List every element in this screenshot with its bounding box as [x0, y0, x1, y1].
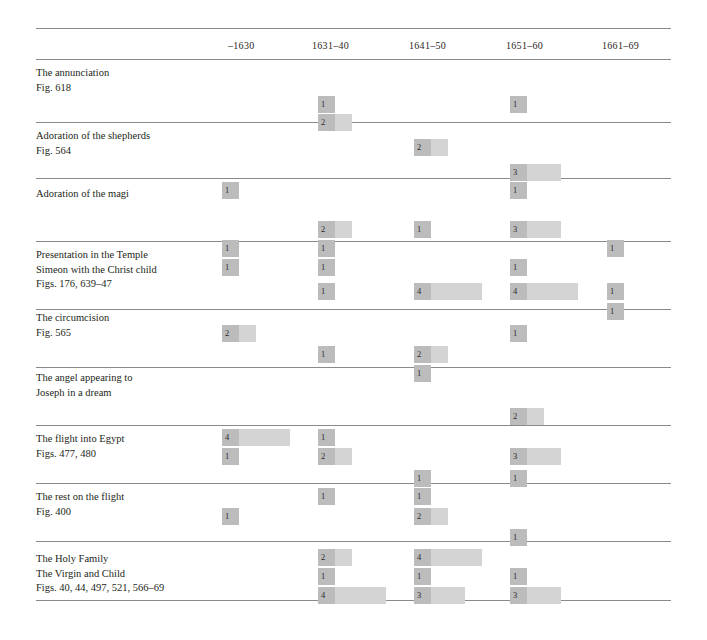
bar-value-label: 1 — [513, 183, 517, 198]
value-bar: 1 — [510, 325, 527, 342]
section-label-line: Adoration of the shepherds — [36, 129, 150, 144]
section-label-line: Fig. 618 — [36, 81, 109, 96]
value-bar: 3 — [510, 164, 561, 181]
value-bar: 4 — [414, 549, 482, 566]
bar-extension — [431, 587, 465, 604]
section-label-line: Joseph in a dream — [36, 386, 133, 401]
section-label: The annunciationFig. 618 — [36, 66, 109, 95]
section-label-line: Adoration of the magi — [36, 187, 129, 202]
bar-value-label: 4 — [225, 430, 229, 445]
bar-extension — [335, 448, 352, 465]
section-label-line: The flight into Egypt — [36, 432, 124, 447]
value-bar: 2 — [318, 114, 352, 131]
bar-value-label: 2 — [417, 140, 421, 155]
bar-value-label: 3 — [417, 588, 421, 603]
value-bar: 1 — [414, 365, 431, 382]
column-header-2: 1631–40 — [312, 40, 349, 51]
bar-value-label: 3 — [513, 165, 517, 180]
section-label: Adoration of the magi — [36, 187, 129, 202]
value-bar: 3 — [414, 587, 465, 604]
bar-extension — [431, 346, 448, 363]
bar-value-label: 1 — [417, 489, 421, 504]
section-label-line: The Virgin and Child — [36, 567, 164, 582]
bar-value-label: 4 — [417, 284, 421, 299]
section-label-line: Presentation in the Temple — [36, 248, 157, 263]
section-label: Adoration of the shepherdsFig. 564 — [36, 129, 150, 158]
section-divider-rule — [36, 541, 671, 542]
value-bar: 1 — [318, 429, 335, 446]
bar-value-label: 2 — [417, 509, 421, 524]
section-divider-rule — [36, 425, 671, 426]
section-label-line: The Holy Family — [36, 552, 164, 567]
bar-value-label: 3 — [513, 588, 517, 603]
section-divider-rule — [36, 178, 671, 179]
bar-value-label: 1 — [610, 241, 614, 256]
section-label: The angel appearing toJoseph in a dream — [36, 371, 133, 400]
section-label: Presentation in the TempleSimeon with th… — [36, 248, 157, 292]
bar-value-label: 1 — [513, 326, 517, 341]
section-label-line: The circumcision — [36, 311, 109, 326]
value-bar: 2 — [414, 346, 448, 363]
bar-extension — [335, 114, 352, 131]
value-bar: 2 — [318, 221, 352, 238]
section-label-line: Fig. 565 — [36, 326, 109, 341]
value-bar: 2 — [510, 408, 544, 425]
section-label-line: Figs. 176, 639–47 — [36, 277, 157, 292]
value-bar: 4 — [414, 283, 482, 300]
section-label: The circumcisionFig. 565 — [36, 311, 109, 340]
section-divider-rule — [36, 241, 671, 242]
bar-extension — [239, 429, 290, 446]
bar-value-label: 4 — [417, 550, 421, 565]
bar-value-label: 1 — [321, 241, 325, 256]
section-divider-rule — [36, 28, 671, 29]
bar-value-label: 2 — [513, 409, 517, 424]
section-label-line: Fig. 400 — [36, 505, 124, 520]
bar-value-label: 4 — [513, 284, 517, 299]
value-bar: 2 — [318, 549, 352, 566]
section-label-line: The angel appearing to — [36, 371, 133, 386]
bar-value-label: 1 — [321, 284, 325, 299]
bar-value-label: 2 — [321, 550, 325, 565]
bar-value-label: 1 — [610, 284, 614, 299]
bar-value-label: 1 — [417, 222, 421, 237]
bar-extension — [431, 508, 448, 525]
section-label-line: The annunciation — [36, 66, 109, 81]
value-bar: 1 — [414, 568, 431, 585]
section-label: The flight into EgyptFigs. 477, 480 — [36, 432, 124, 461]
bar-value-label: 1 — [225, 183, 229, 198]
section-label-line: Figs. 40, 44, 497, 521, 566–69 — [36, 581, 164, 596]
bar-extension — [431, 549, 482, 566]
bar-value-label: 1 — [417, 366, 421, 381]
value-bar: 2 — [222, 325, 256, 342]
bar-value-label: 3 — [513, 449, 517, 464]
value-bar: 2 — [414, 508, 448, 525]
value-bar: 1 — [607, 283, 624, 300]
bar-extension — [335, 549, 352, 566]
bar-value-label: 1 — [513, 569, 517, 584]
bar-extension — [431, 139, 448, 156]
value-bar: 1 — [414, 470, 431, 487]
bar-value-label: 2 — [417, 347, 421, 362]
bar-value-label: 2 — [225, 326, 229, 341]
column-header-1: –1630 — [228, 40, 255, 51]
value-bar: 1 — [414, 221, 431, 238]
bar-extension — [239, 325, 256, 342]
value-bar: 1 — [510, 470, 527, 487]
bar-extension — [527, 448, 561, 465]
bar-extension — [527, 408, 544, 425]
bar-extension — [527, 283, 578, 300]
bar-value-label: 1 — [417, 471, 421, 486]
bar-value-label: 1 — [321, 260, 325, 275]
bar-extension — [527, 587, 561, 604]
value-bar: 1 — [318, 96, 335, 113]
section-label-line: Simeon with the Christ child — [36, 263, 157, 278]
column-header-3: 1641–50 — [409, 40, 446, 51]
value-bar: 1 — [222, 448, 239, 465]
bar-value-label: 1 — [321, 347, 325, 362]
bar-value-label: 1 — [321, 430, 325, 445]
bar-value-label: 1 — [513, 260, 517, 275]
value-bar: 3 — [510, 587, 561, 604]
value-bar: 2 — [318, 448, 352, 465]
value-bar: 4 — [222, 429, 290, 446]
value-bar: 3 — [510, 448, 561, 465]
